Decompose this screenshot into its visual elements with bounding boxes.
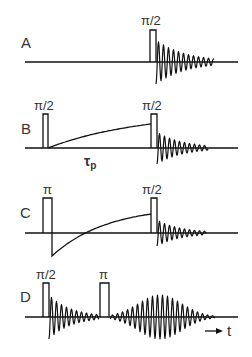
pulse-label-c-2: π/2: [142, 182, 162, 197]
pulse-b-pi-half-2: [151, 114, 157, 148]
arrow-right-icon: [216, 328, 223, 334]
pulse-c-pi-half: [151, 198, 157, 233]
sequence-row-b: B π/2 π/2 τp: [21, 98, 238, 171]
row-label-b: B: [21, 120, 31, 137]
fid-signal-b: [157, 134, 208, 165]
row-label-c: C: [20, 204, 31, 221]
pulse-label-b-1: π/2: [34, 98, 54, 113]
pulse-b-pi-half-1: [43, 114, 48, 148]
delay-label-tau: τp: [84, 153, 96, 171]
row-label-d: D: [20, 288, 31, 305]
row-label-a: A: [21, 34, 31, 51]
pulse-label-b-2: π/2: [142, 98, 162, 113]
time-axis: t: [205, 322, 232, 339]
recovery-curve-b: [48, 124, 151, 148]
pulse-label-a-1: π/2: [141, 13, 161, 28]
pulse-d-pi: [100, 283, 109, 317]
fid-signal-a: [156, 42, 214, 84]
pulse-c-pi: [43, 198, 52, 233]
pulse-label-c-1: π: [43, 182, 52, 197]
pulse-sequence-diagram: A π/2 B π/2 π/2 τp C π π/2 D π/2 π: [0, 0, 252, 357]
pulse-label-d-1: π/2: [36, 267, 56, 282]
recovery-curve-c: [52, 214, 151, 256]
fid-signal-d: [49, 297, 99, 339]
pulse-d-pi-half: [43, 283, 49, 317]
sequence-row-c: C π π/2: [20, 182, 238, 256]
time-axis-label: t: [227, 322, 232, 339]
pulse-a-pi-half: [150, 30, 156, 62]
pulse-label-d-2: π: [99, 267, 108, 282]
sequence-row-d: D π/2 π: [20, 267, 238, 339]
sequence-row-a: A π/2: [21, 13, 238, 84]
